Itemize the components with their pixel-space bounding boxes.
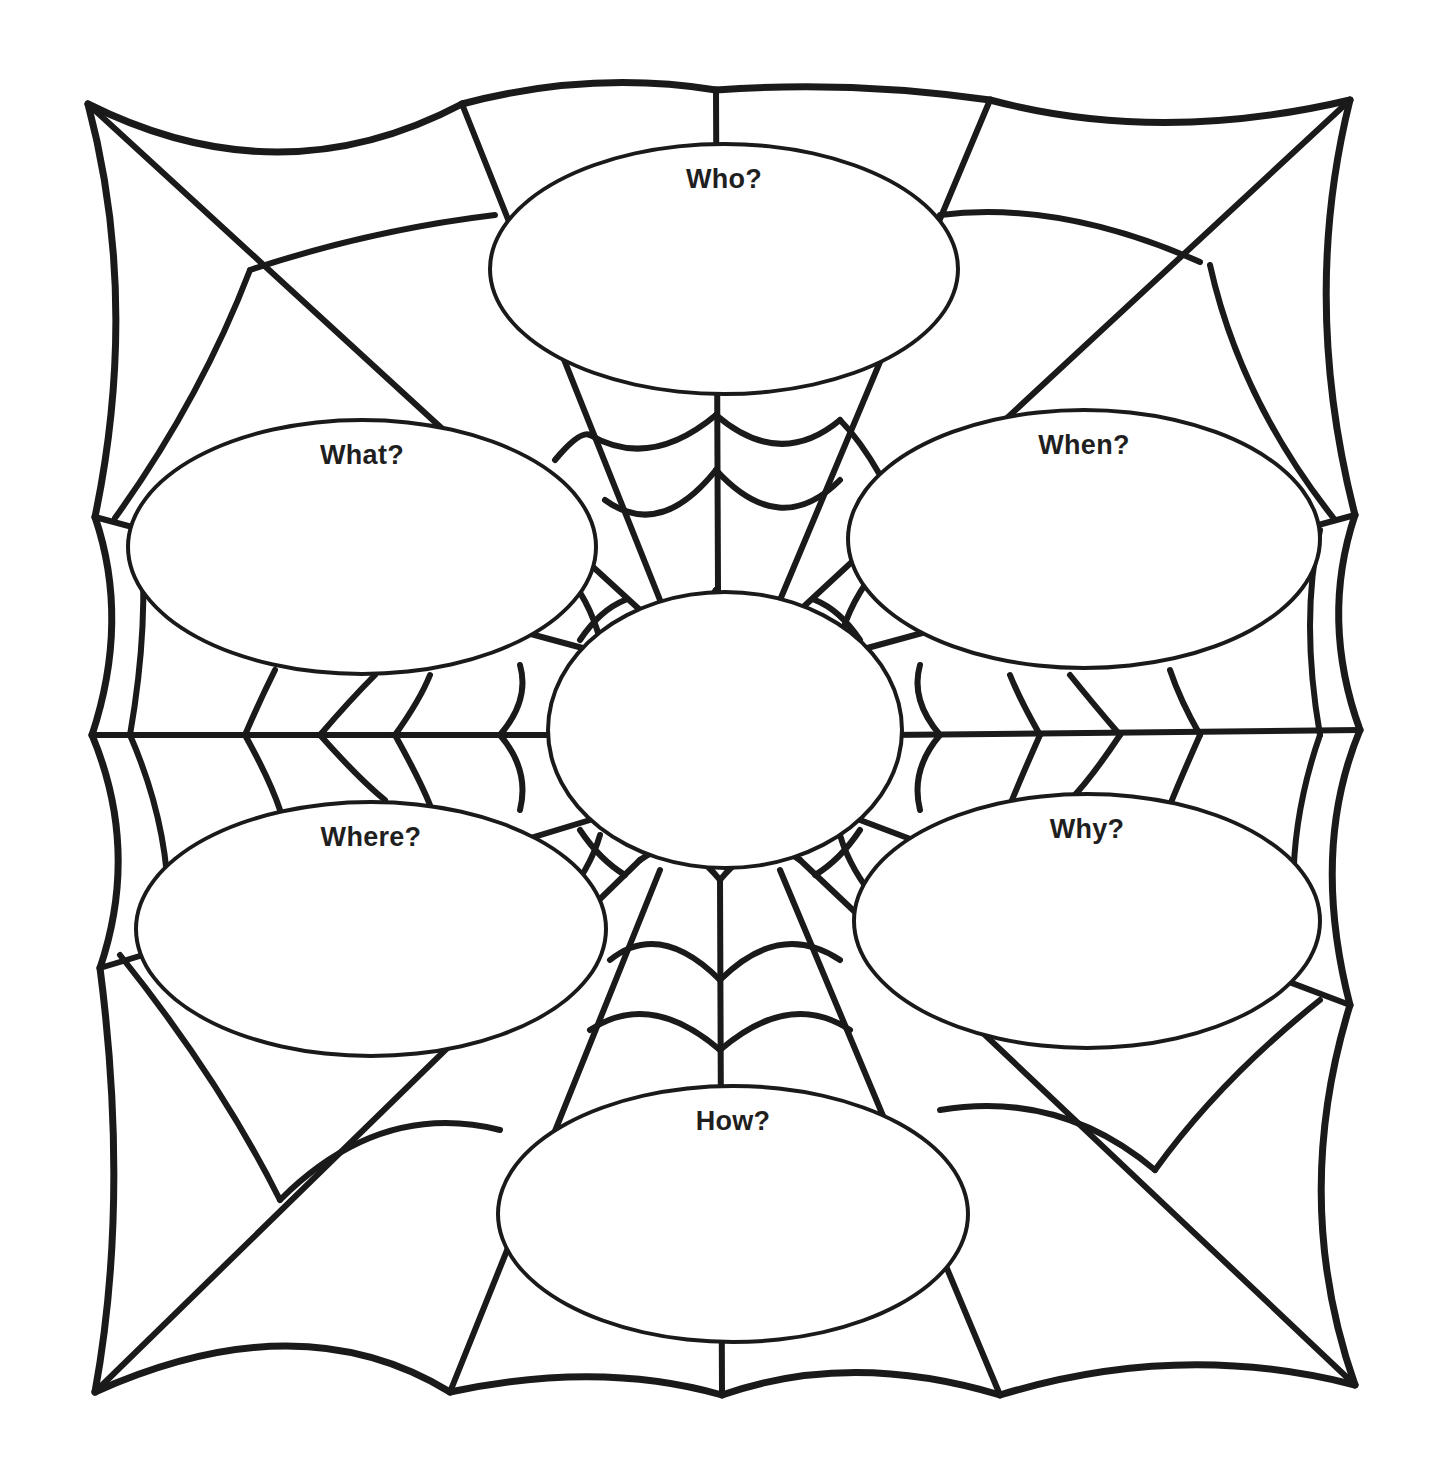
what-answer-area[interactable] bbox=[214, 507, 511, 632]
center-oval[interactable] bbox=[546, 590, 904, 870]
why-answer-area[interactable] bbox=[939, 881, 1235, 1006]
why-oval[interactable]: Why? bbox=[852, 792, 1322, 1050]
how-oval[interactable]: How? bbox=[496, 1084, 970, 1344]
who-oval[interactable]: Who? bbox=[488, 142, 960, 396]
when-answer-area[interactable] bbox=[934, 498, 1234, 625]
where-oval[interactable]: Where? bbox=[134, 800, 608, 1058]
what-oval[interactable]: What? bbox=[126, 418, 598, 676]
who-answer-area[interactable] bbox=[576, 230, 873, 353]
when-oval[interactable]: When? bbox=[846, 408, 1322, 670]
how-answer-area[interactable] bbox=[584, 1174, 882, 1300]
where-answer-area[interactable] bbox=[222, 889, 520, 1014]
center-answer-area[interactable] bbox=[603, 635, 848, 825]
